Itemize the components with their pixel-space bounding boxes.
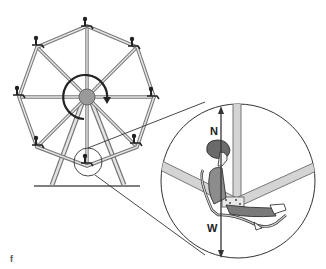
ferris-wheel (13, 17, 159, 186)
normal-force-label: N (210, 125, 218, 137)
weight-force-label: W (207, 222, 217, 234)
corner-mark: f (10, 254, 13, 264)
ferris-wheel-diagram: N W f (0, 0, 326, 269)
wheel-hub (79, 89, 95, 105)
inset-spoke (233, 96, 241, 206)
